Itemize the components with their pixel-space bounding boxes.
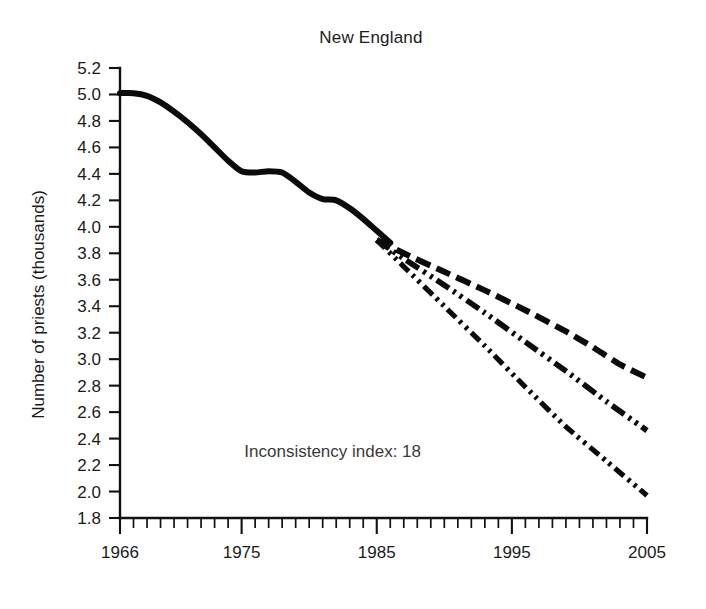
x-tick-label: 1985 — [358, 543, 396, 562]
y-tick-label: 2.8 — [77, 377, 101, 396]
y-tick-label: 5.2 — [77, 59, 101, 78]
y-tick-label: 2.6 — [77, 403, 101, 422]
y-tick-label: 3.6 — [77, 271, 101, 290]
series-line-high-projection — [377, 240, 647, 378]
y-tick-label: 2.4 — [77, 430, 101, 449]
y-tick-label: 4.4 — [77, 165, 101, 184]
y-tick-label: 4.8 — [77, 112, 101, 131]
x-tick-label: 1975 — [223, 543, 261, 562]
x-tick-label: 1995 — [493, 543, 531, 562]
chart-container: New England Number of priests (thousands… — [0, 0, 706, 609]
y-tick-label: 5.0 — [77, 85, 101, 104]
x-tick-label: 2005 — [628, 543, 666, 562]
y-tick-label: 3.8 — [77, 244, 101, 263]
y-axis-ticks — [109, 68, 120, 518]
x-axis-tick-labels: 19661975198519952005 — [101, 543, 666, 562]
series-line-historical — [120, 93, 390, 243]
y-tick-label: 4.0 — [77, 218, 101, 237]
series-line-middle-projection — [377, 240, 647, 431]
y-axis-tick-labels: 5.25.04.84.64.44.24.03.83.63.43.23.02.82… — [77, 59, 101, 528]
y-tick-label: 1.8 — [77, 509, 101, 528]
y-tick-label: 2.0 — [77, 483, 101, 502]
x-axis-ticks — [120, 518, 647, 534]
y-tick-label: 3.4 — [77, 297, 101, 316]
plot-area: 5.25.04.84.64.44.24.03.83.63.43.23.02.82… — [0, 0, 706, 609]
data-series-group — [120, 93, 647, 495]
y-tick-label: 3.0 — [77, 350, 101, 369]
y-tick-label: 4.2 — [77, 191, 101, 210]
y-tick-label: 3.2 — [77, 324, 101, 343]
y-tick-label: 4.6 — [77, 138, 101, 157]
x-tick-label: 1966 — [101, 543, 139, 562]
inconsistency-index: Inconsistency index: 18 — [244, 442, 421, 461]
chart-annotations: Inconsistency index: 18 — [244, 442, 421, 461]
y-tick-label: 2.2 — [77, 456, 101, 475]
